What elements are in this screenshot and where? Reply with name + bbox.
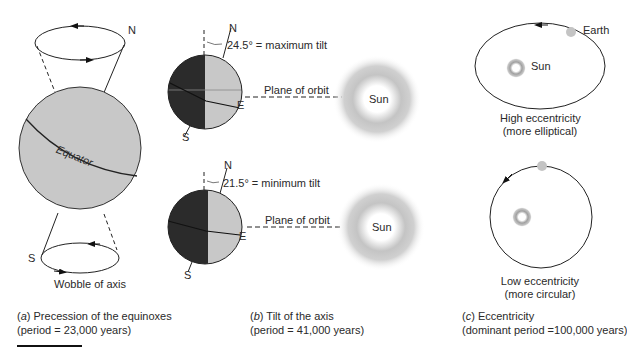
divider-rule [17, 345, 82, 347]
east-label-bottom: E [239, 230, 246, 243]
earth-label: Earth [583, 24, 609, 37]
precession-top-ellipse [35, 26, 125, 60]
orbit-label-top: Plane of orbit [264, 84, 329, 97]
earth-dot-2 [537, 161, 547, 171]
south-label-a: S [28, 252, 35, 265]
max-tilt-label: 24.5° = maximum tilt [227, 39, 327, 52]
earth-sphere [19, 87, 141, 209]
caption-a-letter: a [21, 310, 27, 322]
precession-bottom-ellipse [41, 243, 119, 273]
low-eccentricity-label: Low eccentricity [500, 275, 580, 288]
earth-dot [566, 27, 576, 37]
caption-a-title: Precession of the equinoxes [30, 310, 171, 322]
caption-c-title: Eccentricity [475, 310, 534, 322]
south-label-b-top: S [182, 131, 189, 144]
caption-c-letter: c [466, 310, 472, 322]
north-label-a: N [128, 24, 136, 37]
high-eccentricity-label: High eccentricity [500, 112, 580, 125]
caption-b-period: (period = 41,000 years) [250, 323, 364, 337]
caption-b: (b) Tilt of the axis [250, 309, 334, 323]
sun-label-small: Sun [531, 60, 551, 73]
panel-c-low-eccentricity [490, 161, 592, 268]
sun-label-bottom: Sun [372, 221, 392, 234]
caption-b-letter: b [254, 310, 260, 322]
caption-c: (c) Eccentricity [462, 309, 534, 323]
wobble-label: Wobble of axis [54, 278, 126, 291]
sun-small [506, 58, 526, 78]
sun-small-2 [512, 207, 532, 227]
north-label-b-bottom: N [224, 159, 232, 172]
caption-a: (a) Precession of the equinoxes [17, 309, 172, 323]
circular-orbit [490, 166, 592, 268]
min-tilt-label: 21.5° = minimum tilt [223, 177, 320, 190]
orbit-arrow-icon-2 [505, 174, 512, 181]
east-label-top: E [237, 99, 244, 112]
more-circular-label: (more circular) [500, 288, 580, 301]
south-label-b-bottom: S [184, 269, 191, 282]
panel-a-precession [19, 26, 141, 273]
north-label-b-top: N [229, 22, 237, 35]
caption-b-title: Tilt of the axis [263, 310, 333, 322]
more-elliptical-label: (more elliptical) [500, 125, 580, 138]
caption-a-period: (period = 23,000 years) [17, 323, 131, 337]
sun-label-top: Sun [369, 93, 389, 106]
caption-c-period: (dominant period =100,000 years) [462, 323, 627, 337]
orbit-label-bottom: Plane of orbit [265, 214, 330, 227]
